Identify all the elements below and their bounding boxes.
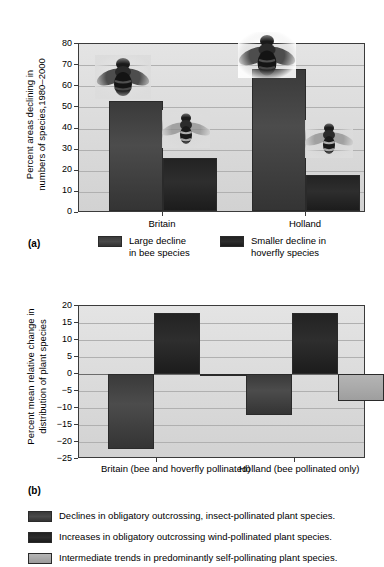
chart-b-tickmark-minus20	[74, 441, 78, 442]
chart-b-ytick-minus5: −5	[42, 386, 72, 395]
bar-britain-insect-pollinated-decline	[108, 374, 154, 449]
bar-holland-insect-pollinated-decline	[246, 374, 292, 415]
chart-b-ytick-15: 15	[46, 318, 72, 327]
chart-b-xtick-britain: Britain (bee and hoverfly pollinated)	[101, 463, 211, 474]
chart-b-ytick-minus25: −25	[42, 454, 72, 463]
legend-swatch-self-pollinating-trend	[28, 553, 52, 564]
legend-swatch-hoverfly-decline	[220, 236, 244, 247]
bar-holland-wind-pollinated-increase	[292, 313, 338, 374]
chart-b-legend-item-increases: Increases in obligatory outcrossing wind…	[28, 531, 378, 543]
chart-b-plot-area	[78, 305, 365, 458]
bar-holland-self-pollinating-trend	[338, 374, 384, 401]
chart-b-ytick-5: 5	[46, 352, 72, 361]
chart-a-legend-label-hoverfly: Smaller decline in hoverfly species	[251, 235, 326, 258]
chart-panel-b: Percent mean relative change in distribu…	[0, 270, 384, 567]
chart-a-ytick-50: 50	[52, 102, 72, 111]
bar-britain-bee-decline	[109, 101, 163, 211]
chart-b-ytick-minus15: −15	[42, 420, 72, 429]
chart-b-ytick-minus10: −10	[42, 403, 72, 412]
bee-icon	[95, 55, 151, 99]
chart-b-legend-label-intermediate: Intermediate trends in predominantly sel…	[59, 552, 337, 564]
bar-holland-hoverfly-decline	[306, 175, 360, 211]
chart-b-xtick-holland: Holland (bee pollinated only)	[239, 463, 349, 474]
bar-britain-hoverfly-decline	[163, 158, 217, 211]
chart-b-y-axis-label: Percent mean relative change in distribu…	[25, 292, 48, 462]
chart-a-tickmark-80	[74, 43, 78, 44]
chart-b-tickmark-minus10	[74, 407, 78, 408]
chart-b-legend-item-declines: Declines in obligatory outcrossing, inse…	[28, 510, 378, 522]
bar-holland-bee-decline	[252, 69, 306, 211]
chart-b-xtickmark-holland	[294, 458, 295, 462]
chart-b-ytick-20: 20	[46, 301, 72, 310]
legend-swatch-bee-decline	[98, 236, 122, 247]
bar-britain-self-pollinating-trend	[200, 374, 246, 376]
chart-b-tickmark-minus25	[74, 458, 78, 459]
chart-b-tickmark-minus5	[74, 390, 78, 391]
chart-a-tickmark-20	[74, 170, 78, 171]
chart-b-tickmark-5	[74, 356, 78, 357]
legend-swatch-insect-pollinated-decline	[28, 511, 52, 522]
chart-a-xtick-holland: Holland	[265, 218, 345, 229]
hoverfly-icon	[305, 120, 353, 158]
chart-a-ytick-30: 30	[52, 144, 72, 153]
chart-a-xtick-britain: Britain	[122, 218, 202, 229]
chart-a-ytick-70: 70	[52, 60, 72, 69]
chart-a-tickmark-50	[74, 106, 78, 107]
hoverfly-icon	[162, 110, 210, 148]
chart-a-ytick-60: 60	[52, 81, 72, 90]
chart-a-ytick-20: 20	[52, 165, 72, 174]
chart-a-legend-item-bee: Large decline in bee species	[98, 235, 190, 258]
chart-a-legend-label-bee: Large decline in bee species	[129, 235, 190, 258]
panel-a-tag: (a)	[28, 238, 40, 249]
bee-icon	[238, 32, 296, 78]
chart-a-tickmark-40	[74, 128, 78, 129]
chart-a-y-axis-label: Percent areas declining in numbers of sp…	[24, 42, 47, 207]
chart-b-ytick-10: 10	[46, 335, 72, 344]
chart-b-tickmark-0	[74, 373, 78, 374]
chart-b-legend-label-increases: Increases in obligatory outcrossing wind…	[59, 531, 332, 543]
chart-a-tickmark-10	[74, 191, 78, 192]
chart-a-tickmark-70	[74, 64, 78, 65]
chart-b-ytick-0: 0	[46, 369, 72, 378]
chart-a-xtickmark-britain	[162, 212, 163, 216]
chart-b-tickmark-10	[74, 339, 78, 340]
chart-a-tickmark-30	[74, 149, 78, 150]
chart-a-legend-item-hoverfly: Smaller decline in hoverfly species	[220, 235, 326, 258]
chart-b-tickmark-20	[74, 305, 78, 306]
chart-b-tickmark-minus15	[74, 424, 78, 425]
chart-b-legend-label-declines: Declines in obligatory outcrossing, inse…	[59, 510, 335, 522]
chart-a-xtickmark-holland	[305, 212, 306, 216]
chart-b-legend-item-intermediate: Intermediate trends in predominantly sel…	[28, 552, 378, 564]
chart-panel-a: Percent areas declining in numbers of sp…	[0, 0, 384, 270]
figure-container: Percent areas declining in numbers of sp…	[0, 0, 384, 567]
chart-b-tickmark-15	[74, 322, 78, 323]
chart-a-ytick-40: 40	[52, 123, 72, 132]
chart-b-xtickmark-britain	[156, 458, 157, 462]
chart-a-ytick-80: 80	[52, 39, 72, 48]
chart-a-ytick-0: 0	[52, 207, 72, 216]
chart-a-tickmark-60	[74, 85, 78, 86]
chart-b-ytick-minus20: −20	[42, 437, 72, 446]
chart-a-tickmark-0	[74, 212, 78, 213]
panel-b-tag: (b)	[28, 485, 41, 496]
bar-britain-wind-pollinated-increase	[154, 313, 200, 374]
legend-swatch-wind-pollinated-increase	[28, 532, 52, 543]
chart-a-ytick-10: 10	[52, 186, 72, 195]
